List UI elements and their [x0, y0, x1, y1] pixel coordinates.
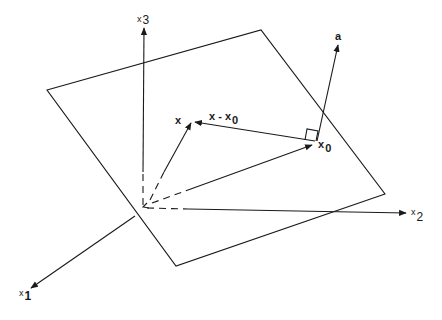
x2-axis [147, 208, 406, 213]
hyperplane-diagram: x3 x1 x2 x x - x0 x0 a [0, 0, 442, 320]
vector-x [150, 123, 191, 200]
vector-x-minus-x0 [195, 122, 315, 141]
x-label: x [175, 114, 182, 126]
origin-marker [143, 203, 149, 208]
vector-a [317, 45, 338, 141]
a-label: a [335, 30, 342, 42]
x1-axis [31, 216, 135, 288]
x0-label: x0 [318, 138, 331, 154]
x3-label: x3 [137, 13, 150, 27]
plane [47, 30, 385, 266]
x2-label: x2 [411, 207, 424, 224]
x3-axis [143, 28, 144, 205]
x-minus-x0-label: x - x0 [209, 110, 238, 126]
vector-x0 [152, 145, 312, 203]
x1-label: x1 [19, 288, 32, 303]
